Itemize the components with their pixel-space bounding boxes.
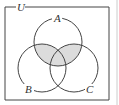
set-b-label: B xyxy=(25,83,32,95)
venn-diagram: U A B C xyxy=(0,0,119,105)
set-c-label: C xyxy=(86,83,94,95)
set-a-label: A xyxy=(53,12,61,24)
universe-label: U xyxy=(17,1,26,13)
